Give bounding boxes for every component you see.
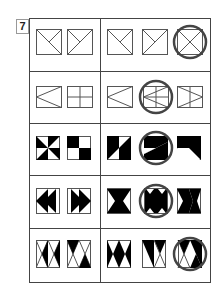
row4-given-1 (36, 188, 60, 214)
row5-seq-2[interactable] (142, 240, 166, 268)
row5-given-2 (67, 240, 91, 268)
row2-given-2 (67, 86, 93, 108)
row-divider (30, 123, 210, 124)
row2-seq-1[interactable] (107, 86, 133, 108)
row5-given-1 (36, 240, 60, 268)
row5-answer-circled[interactable] (172, 235, 208, 273)
row3-given-1 (36, 136, 60, 160)
question-number: 7 (16, 19, 29, 34)
column-divider (100, 19, 101, 282)
row2-seq-3[interactable] (177, 86, 203, 108)
puzzle-grid (29, 18, 211, 283)
row1-answer-circled[interactable] (172, 24, 208, 60)
row2-given-1 (36, 86, 62, 108)
row-divider (30, 175, 210, 176)
row1-seq-1[interactable] (107, 29, 133, 55)
row1-given-1 (36, 29, 62, 55)
row4-given-2 (67, 188, 91, 214)
row3-answer-circled[interactable] (138, 130, 174, 166)
row1-seq-2[interactable] (142, 29, 168, 55)
row-divider (30, 71, 210, 72)
row3-seq-1[interactable] (107, 136, 131, 160)
row3-given-2 (67, 136, 91, 160)
row-divider (30, 228, 210, 229)
row2-answer-circled[interactable] (138, 79, 174, 115)
row4-seq-1[interactable] (107, 188, 131, 214)
row3-seq-3[interactable] (177, 136, 201, 160)
row5-seq-1[interactable] (107, 240, 131, 268)
row1-given-2 (67, 29, 93, 55)
row4-seq-3[interactable] (177, 188, 201, 214)
row4-answer-circled[interactable] (138, 183, 174, 219)
